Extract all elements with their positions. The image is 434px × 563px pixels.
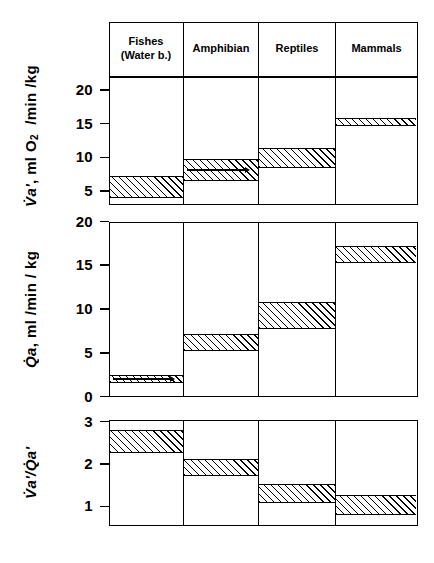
plot-divider-va-1 [183,77,185,205]
tick-label-qa-20: 20 [59,214,93,229]
tick-label-va-20: 20 [59,82,93,97]
column-header-label-primary: Reptiles [276,42,319,56]
tick-qa-10 [100,308,109,310]
data-band-qa-amphibian [184,334,257,351]
tick-qa-15 [100,264,109,266]
column-header-label-primary: Mammals [351,42,401,56]
column-header-label-primary: Amphibian [193,42,250,56]
axis-title-symbol: Q̇a [22,347,39,368]
tick-label-ratio-1: 1 [59,498,93,513]
axis-title-symbol: V̇a'/Q̇a' [22,446,39,498]
column-header-amphibian: Amphibian [184,22,259,77]
range-arrowhead-va-amphibian [245,167,250,173]
tick-ratio-2 [100,463,109,465]
plot-divider-va-2 [258,77,260,205]
tick-label-ratio-3: 3 [59,414,93,429]
plot-divider-qa-1 [183,222,185,397]
column-header-reptiles: Reptiles [259,22,336,77]
axis-title-units: , ml /min / kg [22,250,39,346]
data-band-ratio-amphibian [184,459,257,476]
data-band-va-mammals [336,118,416,126]
tick-qa-20 [100,221,109,223]
data-band-ratio-mammals [336,495,416,515]
tick-qa-0 [100,396,109,398]
axis-title-ratio: V̇a'/Q̇a' [22,416,39,530]
tick-label-qa-0: 0 [59,389,93,404]
tick-va-15 [100,123,109,125]
column-header-mammals: Mammals [336,22,418,77]
data-band-qa-reptiles [259,302,334,329]
tick-va-20 [100,89,109,91]
axis-title-units: , ml O2 /min /kg [22,64,39,183]
data-band-ratio-reptiles [259,484,334,503]
range-arrowhead-qa-fishes [170,376,175,382]
data-band-va-fishes [110,176,183,198]
data-band-qa-mammals [336,246,416,263]
tick-ratio-3 [100,421,109,423]
column-header-label-secondary: (Water b.) [121,49,171,63]
tick-qa-5 [100,352,109,354]
tick-label-qa-15: 15 [59,257,93,272]
axis-title-symbol: V̇a' [22,183,39,206]
range-arrow-va-amphibian [187,169,244,170]
tick-ratio-1 [100,506,109,508]
tick-label-va-10: 10 [59,149,93,164]
axis-title-qa: Q̇a, ml /min / kg [22,228,39,391]
tick-va-5 [100,190,109,192]
plot-divider-ratio-2 [258,420,260,526]
column-header-fishes: Fishes(Water b.) [109,22,184,77]
tick-label-qa-5: 5 [59,345,93,360]
tick-va-10 [100,157,109,159]
column-header-label-primary: Fishes [129,35,164,49]
data-band-va-reptiles [259,148,334,168]
data-band-ratio-fishes [110,430,183,453]
plot-divider-va-3 [335,77,337,205]
tick-label-ratio-2: 2 [59,456,93,471]
tick-label-qa-10: 10 [59,301,93,316]
figure-root: Fishes(Water b.)AmphibianReptilesMammals… [0,0,434,563]
range-arrow-qa-fishes [113,378,170,379]
tick-label-va-5: 5 [59,183,93,198]
tick-label-va-15: 15 [59,116,93,131]
axis-title-va: V̇a', ml O2 /min /kg [22,75,40,207]
